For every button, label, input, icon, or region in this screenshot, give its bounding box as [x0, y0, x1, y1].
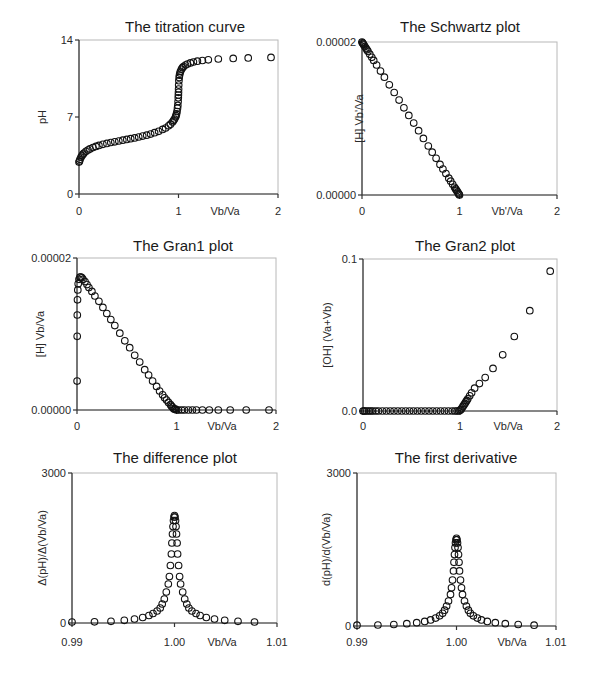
y-axis-label: pH	[36, 110, 48, 124]
chart-canvas: The titration curve0120714Vb/VapHThe Sch…	[0, 0, 591, 675]
data-point	[122, 338, 129, 345]
titration-chart: The titration curve0120714Vb/VapH	[36, 18, 281, 217]
data-point	[531, 622, 538, 629]
data-point	[458, 585, 465, 592]
gran2-chart: The Gran2 plot0120.00.1Vb/Va[OH] (Va+Vb)	[321, 237, 560, 432]
chart-title: The first derivative	[395, 449, 518, 466]
plot-area	[363, 259, 557, 411]
x-tick-label: 2	[554, 420, 560, 432]
data-point	[179, 589, 186, 596]
data-point	[230, 55, 237, 62]
data-point	[415, 127, 422, 134]
data-point	[511, 333, 518, 340]
data-point	[203, 614, 210, 621]
x-tick-label: 2	[275, 205, 281, 217]
y-tick-label: 0	[60, 617, 66, 629]
x-tick-label: 1.00	[446, 636, 467, 648]
data-point	[515, 621, 522, 628]
data-point	[136, 359, 143, 366]
x-tick-label: 0	[359, 205, 365, 217]
data-point	[131, 352, 138, 359]
data-point	[484, 618, 491, 625]
data-point	[167, 562, 174, 569]
x-tick-label: 1.01	[545, 636, 566, 648]
data-point	[420, 135, 427, 142]
data-point	[108, 618, 115, 625]
plot-area	[362, 42, 557, 195]
data-point	[147, 131, 154, 138]
data-point	[401, 105, 408, 112]
data-point	[175, 562, 182, 569]
data-point	[145, 372, 152, 379]
data-series	[360, 268, 554, 414]
data-point	[547, 268, 554, 275]
data-point	[91, 619, 98, 626]
x-axis-label: Vb/Va	[207, 636, 237, 648]
difference-chart: The difference plot0.991.001.0103000Vb/V…	[36, 449, 288, 648]
data-point	[197, 612, 204, 619]
x-tick-label: 0.99	[61, 636, 82, 648]
data-point	[174, 551, 181, 558]
y-tick-label: 0.1	[342, 253, 357, 265]
x-axis-label: Vb/Va	[493, 420, 523, 432]
chart-title: The difference plot	[113, 449, 238, 466]
data-point	[490, 365, 497, 372]
y-tick-label: 0	[67, 188, 73, 200]
data-series	[74, 274, 273, 414]
x-tick-label: 1.00	[164, 636, 185, 648]
y-tick-label: 0.0	[342, 405, 357, 417]
data-point	[482, 374, 489, 381]
y-tick-label: 0.00002	[316, 36, 356, 48]
data-point	[410, 120, 417, 127]
data-point	[433, 155, 440, 162]
data-point	[268, 54, 275, 61]
data-series	[359, 39, 463, 199]
data-point	[245, 55, 252, 62]
data-point	[381, 74, 388, 81]
data-point	[459, 591, 466, 598]
x-tick-label: 2	[554, 205, 560, 217]
y-tick-label: 0.00000	[316, 189, 356, 201]
data-point	[251, 619, 258, 626]
chart-title: The Gran2 plot	[415, 237, 516, 254]
data-point	[456, 559, 463, 566]
data-point	[447, 591, 454, 598]
first-derivative-chart: The first derivative0.991.001.0103000Vb/…	[320, 449, 567, 648]
data-point	[131, 616, 138, 623]
y-tick-label: 0	[345, 620, 351, 632]
data-point	[377, 68, 384, 75]
chart-title: The titration curve	[125, 18, 245, 35]
data-point	[499, 352, 506, 359]
data-point	[139, 614, 146, 621]
x-axis-label: Vb/Va	[207, 420, 237, 432]
data-point	[449, 577, 456, 584]
x-tick-label: 0	[360, 420, 366, 432]
gran1-chart: The Gran1 plot0120.000000.00002Vb/Va[H] …	[31, 237, 279, 432]
data-point	[476, 380, 483, 387]
data-point	[455, 551, 462, 558]
data-point	[165, 581, 172, 588]
data-point	[155, 128, 162, 135]
data-series	[76, 54, 275, 165]
chart-title: The Gran1 plot	[133, 237, 234, 254]
y-axis-label: [H] Vb'/Va	[353, 93, 365, 142]
data-point	[108, 316, 115, 323]
data-point	[163, 589, 170, 596]
plot-area	[77, 258, 276, 410]
x-axis-label: Vb'/Va	[491, 205, 523, 217]
data-point	[168, 551, 175, 558]
chart-title: The Schwartz plot	[400, 18, 521, 35]
x-tick-label: 0	[76, 205, 82, 217]
x-tick-label: 1	[173, 420, 179, 432]
plot-area	[357, 473, 556, 626]
schwartz-chart: The Schwartz plot0120.000000.00002Vb'/Va…	[316, 18, 560, 217]
data-point	[117, 330, 124, 337]
y-axis-label: [OH] (Va+Vb)	[321, 302, 333, 368]
data-point	[406, 112, 413, 119]
data-point	[177, 581, 184, 588]
data-point	[96, 298, 103, 305]
data-point	[166, 573, 173, 580]
plot-area	[72, 473, 277, 623]
data-point	[112, 322, 119, 329]
y-tick-label: 0.00000	[31, 404, 71, 416]
